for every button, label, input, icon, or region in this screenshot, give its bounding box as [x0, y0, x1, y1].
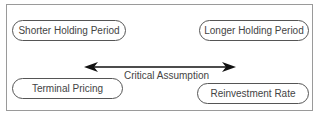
double-arrow-icon: [0, 0, 320, 126]
critical-assumption-label: Critical Assumption: [124, 70, 209, 81]
